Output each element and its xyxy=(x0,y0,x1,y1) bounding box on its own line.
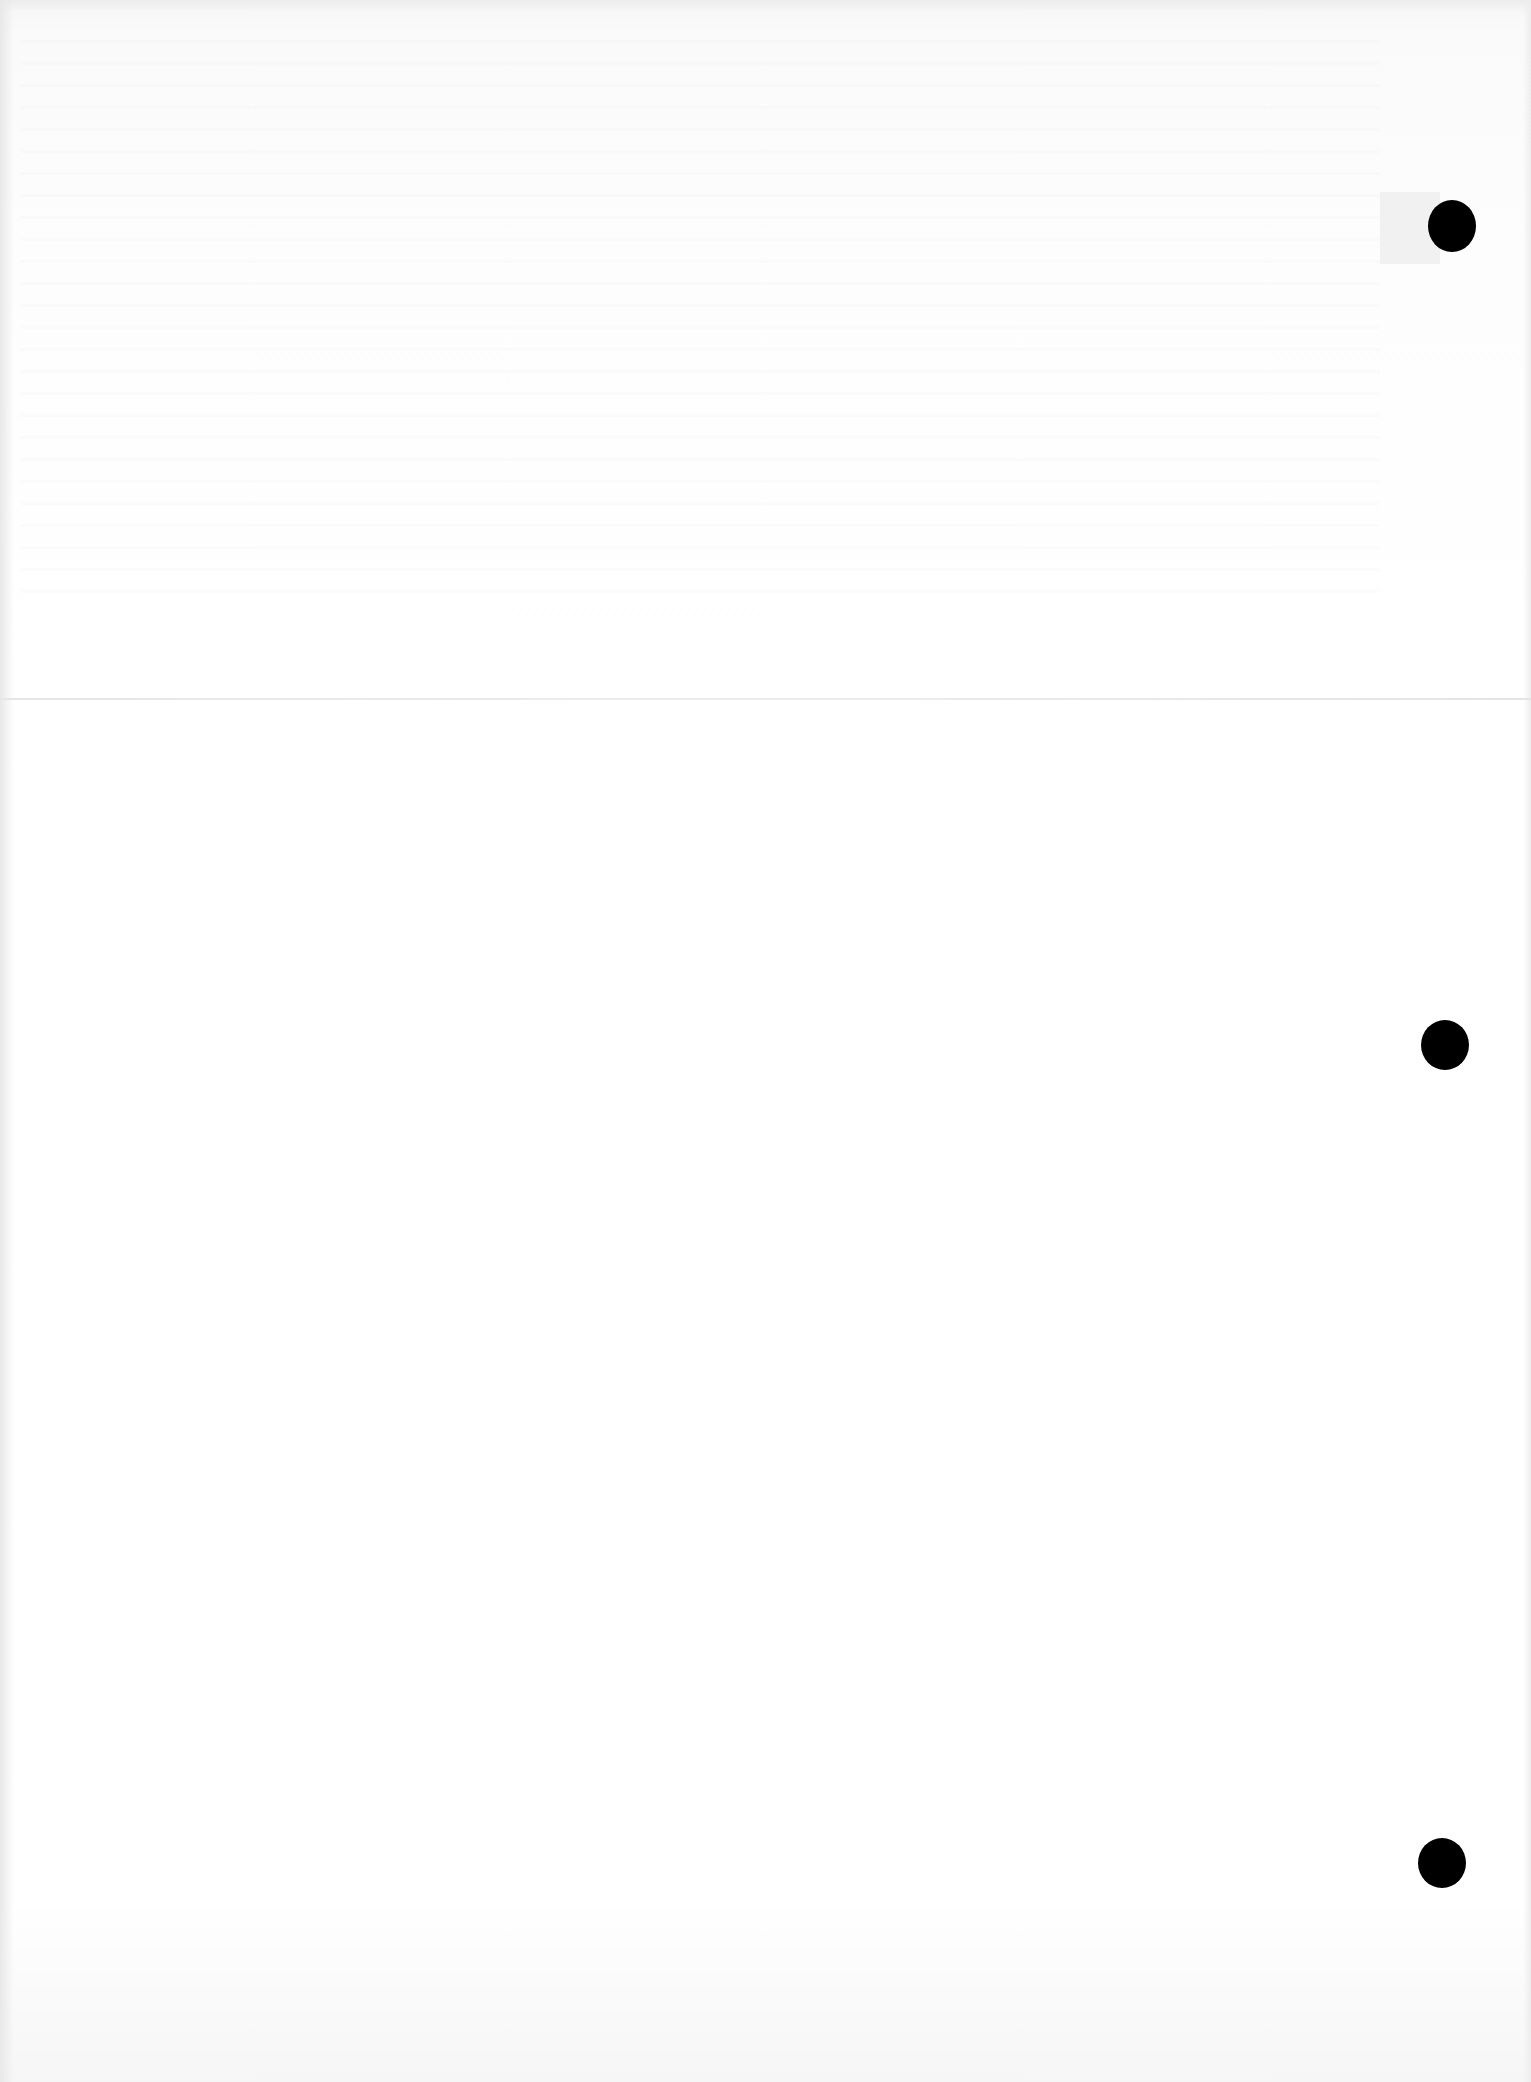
scanned-page xyxy=(0,0,1531,2082)
punch-hole-middle xyxy=(1421,1020,1469,1070)
faint-show-through-texture xyxy=(20,40,1380,600)
punch-hole-top xyxy=(1428,200,1476,252)
page-left-edge-shadow xyxy=(0,0,14,2082)
fold-line xyxy=(0,698,1531,700)
punch-hole-bottom xyxy=(1418,1838,1466,1888)
page-right-edge-shadow xyxy=(1523,0,1531,2082)
